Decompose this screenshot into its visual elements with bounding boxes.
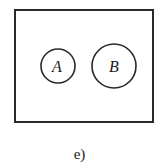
venn-diagram: A B xyxy=(0,0,159,163)
set-b-label: B xyxy=(109,58,119,75)
figure-caption: e) xyxy=(0,146,159,163)
set-a: A xyxy=(41,49,75,83)
set-a-label: A xyxy=(51,58,62,75)
universe-rectangle xyxy=(15,10,153,122)
set-b: B xyxy=(92,44,136,88)
